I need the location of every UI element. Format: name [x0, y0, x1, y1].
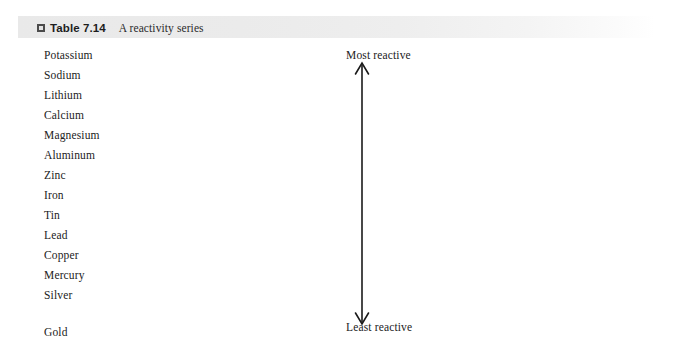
- caption: Table 7.14 A reactivity series: [37, 19, 204, 36]
- list-item: Aluminum: [44, 145, 204, 165]
- reactivity-series-list: Potassium Sodium Lithium Calcium Magnesi…: [44, 45, 204, 342]
- list-item: Copper: [44, 245, 204, 265]
- double-headed-vertical-arrow-icon: [352, 61, 372, 326]
- list-item: Silver: [44, 285, 204, 305]
- list-item: Calcium: [44, 105, 204, 125]
- list-item: Tin: [44, 205, 204, 225]
- caption-number: Table 7.14: [50, 22, 106, 34]
- list-item: Magnesium: [44, 125, 204, 145]
- scale-bottom-label: Least reactive: [346, 317, 412, 337]
- reactivity-scale: Most reactive Least reactive: [300, 45, 560, 340]
- list-item: Sodium: [44, 65, 204, 85]
- table-figure: Table 7.14 A reactivity series Potassium…: [0, 0, 678, 353]
- list-item: Lead: [44, 225, 204, 245]
- list-item: Zinc: [44, 165, 204, 185]
- list-item: Potassium: [44, 45, 204, 65]
- list-item: Iron: [44, 185, 204, 205]
- list-item: Gold: [44, 322, 204, 342]
- list-item: Mercury: [44, 265, 204, 285]
- caption-title: A reactivity series: [119, 22, 204, 34]
- list-item: Lithium: [44, 85, 204, 105]
- table-marker-icon: [37, 24, 45, 32]
